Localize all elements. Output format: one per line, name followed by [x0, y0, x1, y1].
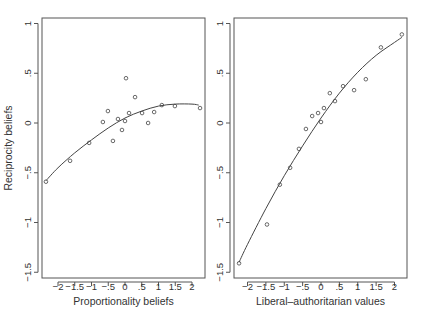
data-point [400, 33, 404, 37]
data-point [341, 84, 345, 88]
data-point [310, 114, 314, 118]
left-panel-proportionality: −1.5−1−.50.51−2−1.5−1−.50.511.52Proporti… [2, 18, 205, 307]
y-tick-label: 1 [214, 21, 225, 26]
x-tick-label: −2 [53, 281, 64, 292]
y-tick-label: .5 [22, 69, 33, 77]
data-point [68, 159, 72, 163]
y-tick-label: −1 [214, 217, 225, 228]
x-tick-label: 1 [355, 281, 360, 292]
x-tick-label: .5 [335, 281, 343, 292]
data-point [127, 111, 131, 115]
data-point [133, 95, 137, 99]
x-axis-title: Liberal–authoritarian values [256, 295, 385, 307]
x-axis-title: Proportionality beliefs [73, 295, 173, 307]
y-axis-title: Reciprocity beliefs [2, 105, 14, 190]
x-tick-label: 1 [156, 281, 161, 292]
x-tick-label: −1 [279, 281, 290, 292]
x-tick-label: −2 [242, 281, 253, 292]
y-tick-label: −1.5 [214, 263, 225, 282]
data-point [265, 223, 269, 227]
data-point [124, 76, 128, 80]
x-tick-label: 0 [318, 281, 323, 292]
x-tick-label: 2 [189, 281, 194, 292]
x-tick-label: 1.5 [169, 281, 182, 292]
x-tick-label: 0 [122, 281, 127, 292]
data-point [152, 110, 156, 114]
data-point [116, 117, 120, 121]
data-point [120, 128, 124, 132]
y-tick-label: 1 [22, 21, 33, 26]
x-tick-label: −.5 [102, 281, 115, 292]
x-tick-label: 1.5 [370, 281, 383, 292]
fit-curve [46, 104, 199, 181]
data-point [322, 106, 326, 110]
y-tick-label: −.5 [22, 166, 33, 179]
x-tick-label: −1 [86, 281, 97, 292]
y-tick-label: −1 [22, 217, 33, 228]
x-tick-label: −1.5 [256, 281, 275, 292]
fit-curve [239, 37, 402, 262]
x-tick-label: −1.5 [65, 281, 84, 292]
x-tick-label: 2 [392, 281, 397, 292]
plot-frame [234, 18, 407, 278]
data-point [316, 111, 320, 115]
data-point [198, 106, 202, 110]
plot-frame [42, 18, 205, 278]
data-point [111, 139, 115, 143]
data-point [173, 104, 177, 108]
data-point [352, 88, 356, 92]
data-point [123, 119, 127, 123]
y-tick-label: −.5 [214, 166, 225, 179]
x-tick-label: .5 [138, 281, 146, 292]
right-panel-liberal-authoritarian: −1.5−1−.50.51−2−1.5−1−.50.511.52Liberal–… [214, 18, 407, 307]
y-tick-label: 0 [214, 120, 225, 125]
data-point [379, 46, 383, 50]
data-point [106, 109, 110, 113]
data-point [140, 111, 144, 115]
figure: −1.5−1−.50.51−2−1.5−1−.50.511.52Proporti… [0, 0, 421, 326]
data-point [364, 77, 368, 81]
y-tick-label: −1.5 [22, 263, 33, 282]
y-tick-label: .5 [214, 69, 225, 77]
data-point [101, 120, 105, 124]
data-point [319, 120, 323, 124]
data-point [304, 127, 308, 131]
x-tick-label: −.5 [296, 281, 309, 292]
data-point [146, 121, 150, 125]
y-tick-label: 0 [22, 120, 33, 125]
data-point [328, 91, 332, 95]
